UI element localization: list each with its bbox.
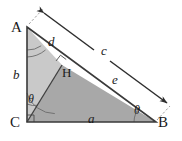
side-label-b: b: [13, 68, 20, 81]
geometry-figure: A C B H a b c d e θ θ: [0, 0, 182, 141]
right-angle-marker-h: [56, 55, 66, 61]
vertex-label-a: A: [11, 20, 22, 35]
side-label-a: a: [88, 112, 95, 125]
vertex-label-b: B: [158, 115, 168, 130]
extension-line-a: [29, 9, 43, 24]
point-label-h: H: [62, 66, 71, 79]
side-label-e: e: [112, 73, 118, 86]
dimension-line-c-right: [110, 61, 167, 103]
angle-label-theta-b: θ: [134, 104, 140, 116]
angle-label-theta-c: θ: [28, 93, 34, 105]
side-label-c: c: [101, 44, 107, 57]
side-label-d: d: [48, 35, 55, 48]
vertex-label-c: C: [10, 115, 20, 130]
